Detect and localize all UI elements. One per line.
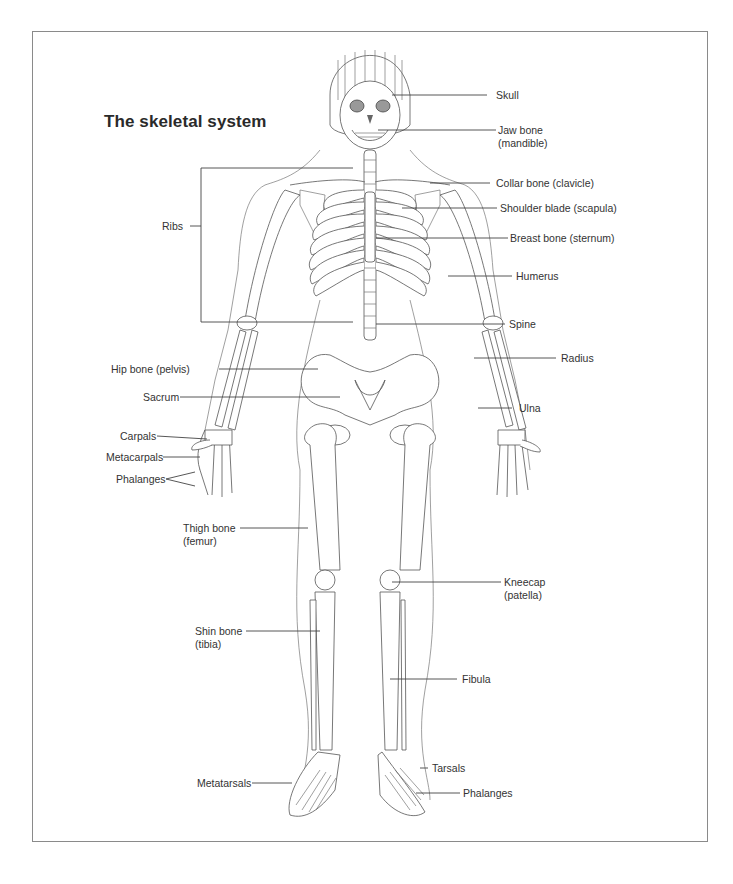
label-fibula: Fibula	[462, 673, 491, 686]
label-metatarsals: Metatarsals	[197, 777, 251, 790]
label-spine: Spine	[509, 318, 536, 331]
label-metacarpals: Metacarpals	[106, 451, 163, 464]
label-kneecap: Kneecap (patella)	[504, 576, 545, 602]
skeleton-illustration	[0, 0, 733, 884]
label-skull: Skull	[496, 89, 519, 102]
label-jaw-bone-line1: Jaw bone	[498, 124, 548, 137]
label-jaw-bone-line2: (mandible)	[498, 137, 548, 150]
label-ulna: Ulna	[519, 402, 541, 415]
label-phalanges-hand: Phalanges	[116, 473, 166, 486]
label-jaw-bone: Jaw bone (mandible)	[498, 124, 548, 150]
label-breast-bone: Breast bone (sternum)	[510, 232, 614, 245]
label-ribs: Ribs	[162, 220, 183, 233]
label-hip-bone: Hip bone (pelvis)	[111, 363, 190, 376]
label-carpals: Carpals	[120, 430, 156, 443]
label-sacrum: Sacrum	[143, 391, 179, 404]
label-humerus: Humerus	[516, 270, 559, 283]
label-kneecap-line1: Kneecap	[504, 576, 545, 589]
label-shin-bone-line2: (tibia)	[195, 638, 242, 651]
label-shin-bone: Shin bone (tibia)	[195, 625, 242, 651]
label-thigh-bone-line2: (femur)	[183, 535, 236, 548]
label-thigh-bone-line1: Thigh bone	[183, 522, 236, 535]
label-phalanges-foot: Phalanges	[463, 787, 513, 800]
label-radius: Radius	[561, 352, 594, 365]
label-thigh-bone: Thigh bone (femur)	[183, 522, 236, 548]
label-tarsals: Tarsals	[432, 762, 465, 775]
label-shoulder-blade: Shoulder blade (scapula)	[500, 202, 617, 215]
label-shin-bone-line1: Shin bone	[195, 625, 242, 638]
label-collar-bone: Collar bone (clavicle)	[496, 177, 594, 190]
label-kneecap-line2: (patella)	[504, 589, 545, 602]
